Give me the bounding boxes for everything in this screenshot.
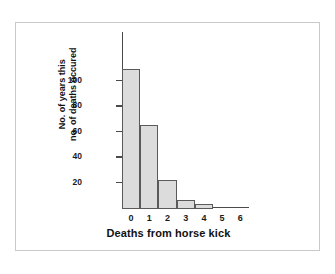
- y-axis-title-line1: No. of years this: [57, 59, 67, 129]
- plot-area: 20406080100 0123456 Deaths from horse ki…: [16, 23, 321, 252]
- x-axis-title: Deaths from horse kick: [16, 227, 321, 239]
- x-tick-label: 6: [232, 214, 248, 223]
- bar: [140, 125, 158, 209]
- x-tick-label: 3: [178, 214, 194, 223]
- x-tick-label: 2: [160, 214, 176, 223]
- bar: [195, 204, 213, 209]
- chart-figure-frame: 20406080100 0123456 Deaths from horse ki…: [15, 22, 320, 251]
- bar: [177, 200, 195, 209]
- x-tick-label: 1: [141, 214, 157, 223]
- x-tick-label: 5: [214, 214, 230, 223]
- x-tick-label: 4: [196, 214, 212, 223]
- y-tick-label: 20: [48, 178, 82, 187]
- bar: [158, 180, 176, 209]
- x-tick-label: 0: [123, 214, 139, 223]
- y-axis-title-line2: no. of deaths occured: [68, 34, 79, 154]
- bar: [122, 69, 140, 209]
- y-axis-title: No. of years this no. of deaths occured: [57, 34, 80, 154]
